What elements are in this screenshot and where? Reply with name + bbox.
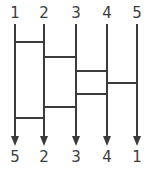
bottom-label-2: 2 [34, 150, 54, 165]
bottom-label-5: 1 [127, 150, 147, 165]
bottom-label-3: 3 [66, 150, 86, 165]
bottom-label-1: 5 [5, 150, 25, 165]
wiring-diagram-canvas [0, 0, 149, 172]
wiring-diagram: 12345 52341 [0, 0, 149, 172]
top-label-2: 2 [34, 6, 54, 21]
bottom-label-4: 4 [97, 150, 117, 165]
arrowhead-icon-wire-3 [72, 136, 80, 146]
arrowhead-icon-wire-2 [40, 136, 48, 146]
arrowhead-icon-wire-5 [133, 136, 141, 146]
wires-group [15, 24, 137, 136]
arrowhead-icon-wire-4 [103, 136, 111, 146]
top-label-3: 3 [66, 6, 86, 21]
arrowhead-icon-wire-1 [11, 136, 19, 146]
top-label-1: 1 [5, 6, 25, 21]
arrowheads-group [11, 136, 141, 146]
top-label-4: 4 [97, 6, 117, 21]
top-label-5: 5 [127, 6, 147, 21]
